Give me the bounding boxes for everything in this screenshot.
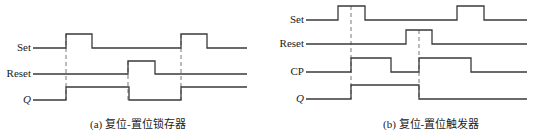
waveform-cp xyxy=(306,58,527,72)
signal-label-q: Q xyxy=(296,92,304,104)
signal-label-q: Q xyxy=(23,93,31,105)
waveform-set xyxy=(33,34,247,48)
panel-sr-flipflop: SetResetCPQ (b) 复位-置位触发器 xyxy=(270,0,534,140)
signal-label-set: Set xyxy=(17,41,31,53)
caption-sr-flipflop: (b) 复位-置位触发器 xyxy=(383,118,479,130)
caption-sr-latch: (a) 复位-置位锁存器 xyxy=(90,118,186,130)
panel-sr-latch: SetResetQ (a) 复位-置位锁存器 xyxy=(0,0,270,140)
signal-label-set: Set xyxy=(290,13,304,25)
signal-label-reset: Reset xyxy=(7,67,31,79)
waveform-set xyxy=(306,6,527,20)
signal-label-cp: CP xyxy=(291,65,304,77)
waveform-reset xyxy=(33,61,247,74)
signal-label-reset: Reset xyxy=(280,37,304,49)
waveform-reset xyxy=(306,30,527,44)
waveform-q xyxy=(306,85,527,99)
waveform-q xyxy=(33,87,247,100)
